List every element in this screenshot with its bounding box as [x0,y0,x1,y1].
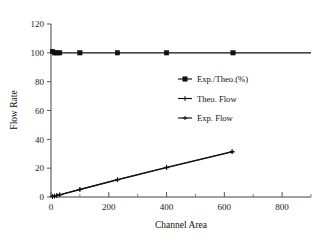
chart-legend: Exp./Theo.(%)Theo. FlowExp. Flow [178,74,248,123]
data-point-marker [57,51,61,55]
y-tick-label: 40 [35,135,45,145]
y-tick-label: 80 [35,77,45,87]
data-point-marker [115,51,119,55]
data-series-group [50,49,311,199]
y-tick-label: 60 [35,106,45,116]
y-tick-label: 20 [35,163,45,173]
series-line-path [52,51,311,52]
y-axis-title: Flow Rate [9,90,19,129]
legend-item: Exp. Flow [178,113,234,123]
legend-label: Theo. Flow [197,94,237,104]
legend-marker [183,77,187,81]
legend-label: Exp./Theo.(%) [197,74,248,84]
data-point-marker [78,51,82,55]
chart-canvas: 020406080100120 0200400600800 Channel Ar… [0,0,324,241]
data-point-marker [164,51,168,55]
legend-item: Theo. Flow [178,94,237,104]
y-tick-label: 120 [31,19,45,29]
y-tick-label: 100 [31,48,45,58]
y-tick-label: 0 [40,192,45,202]
axes-group [51,24,311,197]
legend-label: Exp. Flow [197,113,234,123]
x-tick-label: 0 [49,202,54,212]
x-tick-label: 200 [102,202,116,212]
x-axis-title: Channel Area [155,220,208,230]
series-1 [50,49,311,55]
x-tick-label: 600 [218,202,232,212]
legend-item: Exp./Theo.(%) [178,74,248,84]
x-tick-label: 400 [160,202,174,212]
data-point-marker [231,51,235,55]
y-axis-ticks: 020406080100120 [31,19,52,202]
x-tick-label: 800 [275,202,289,212]
chart-figure: 020406080100120 0200400600800 Channel Ar… [0,0,324,241]
